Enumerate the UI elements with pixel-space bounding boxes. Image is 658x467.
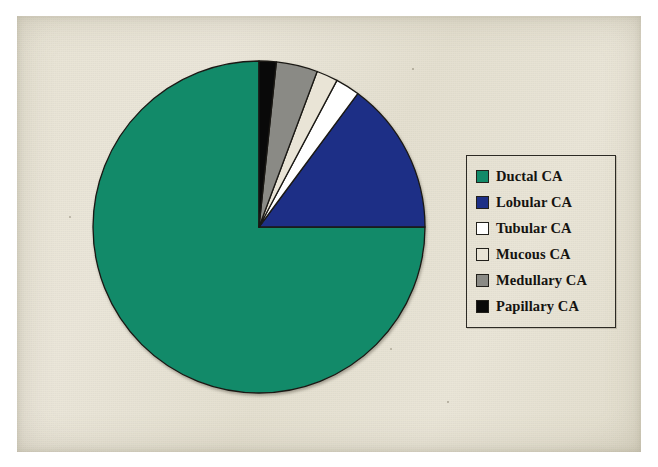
- legend-item-medullary[interactable]: Medullary CA: [476, 269, 608, 292]
- legend-item-lobular[interactable]: Lobular CA: [476, 191, 608, 214]
- scan-speck: [447, 401, 449, 403]
- figure-canvas: Ductal CA Lobular CA Tubular CA Mucous C…: [0, 0, 658, 467]
- chart-legend: Ductal CA Lobular CA Tubular CA Mucous C…: [466, 155, 616, 328]
- legend-swatch-medullary: [476, 274, 489, 287]
- photographic-plate: Ductal CA Lobular CA Tubular CA Mucous C…: [17, 16, 641, 452]
- pie-chart-svg: [89, 57, 429, 397]
- legend-label-lobular: Lobular CA: [496, 195, 572, 210]
- legend-swatch-papillary: [476, 300, 489, 313]
- legend-swatch-mucous: [476, 248, 489, 261]
- pie-slice-group: [93, 61, 425, 393]
- legend-label-mucous: Mucous CA: [496, 247, 571, 262]
- legend-swatch-lobular: [476, 196, 489, 209]
- legend-swatch-tubular: [476, 222, 489, 235]
- legend-label-tubular: Tubular CA: [496, 221, 572, 236]
- pie-chart: [89, 57, 429, 397]
- legend-item-ductal[interactable]: Ductal CA: [476, 165, 608, 188]
- legend-item-tubular[interactable]: Tubular CA: [476, 217, 608, 240]
- scan-speck: [69, 216, 71, 218]
- legend-item-mucous[interactable]: Mucous CA: [476, 243, 608, 266]
- legend-label-papillary: Papillary CA: [496, 299, 579, 314]
- legend-label-ductal: Ductal CA: [496, 169, 563, 184]
- legend-swatch-ductal: [476, 170, 489, 183]
- legend-label-medullary: Medullary CA: [496, 273, 587, 288]
- legend-item-papillary[interactable]: Papillary CA: [476, 295, 608, 318]
